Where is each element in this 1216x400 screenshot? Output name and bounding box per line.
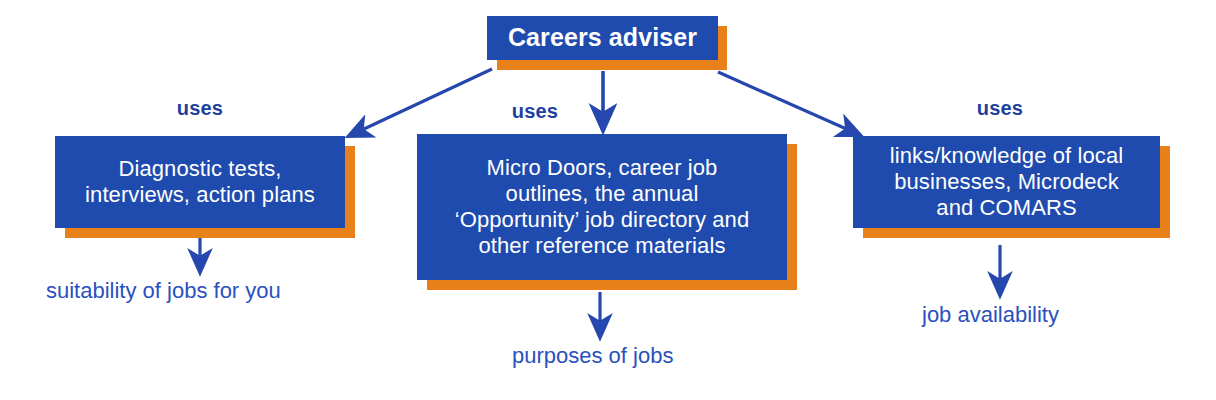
- outcome-right: job availability: [922, 302, 1059, 328]
- right-node[interactable]: links/knowledge of local businesses, Mic…: [853, 136, 1160, 228]
- uses-label-left: uses: [150, 97, 250, 120]
- root-node[interactable]: Careers adviser: [487, 16, 718, 60]
- center-node-line-2: outlines, the annual: [506, 181, 699, 206]
- arrow-root-to-right: [718, 72, 860, 135]
- diagram-canvas: Careers adviser uses Diagnostic tests, i…: [0, 0, 1216, 400]
- outcome-center: purposes of jobs: [512, 343, 673, 369]
- center-node-line-1: Micro Doors, career job: [487, 155, 718, 180]
- right-node-label: links/knowledge of local businesses, Mic…: [890, 143, 1124, 221]
- uses-label-center: uses: [485, 100, 585, 123]
- arrow-root-to-left: [349, 69, 492, 136]
- center-node[interactable]: Micro Doors, career job outlines, the an…: [417, 134, 787, 280]
- left-node-line-2: interviews, action plans: [85, 182, 315, 207]
- root-node-label: Careers adviser: [508, 23, 697, 53]
- outcome-left: suitability of jobs for you: [46, 278, 281, 304]
- left-node[interactable]: Diagnostic tests, interviews, action pla…: [55, 136, 345, 228]
- right-node-line-3: and COMARS: [936, 195, 1076, 220]
- center-node-line-3: ‘Opportunity’ job directory and: [455, 207, 750, 232]
- right-node-line-1: links/knowledge of local: [890, 143, 1124, 168]
- left-node-line-1: Diagnostic tests,: [118, 156, 281, 181]
- uses-label-right: uses: [950, 97, 1050, 120]
- left-node-label: Diagnostic tests, interviews, action pla…: [85, 156, 315, 208]
- center-node-line-4: other reference materials: [478, 233, 725, 258]
- right-node-line-2: businesses, Microdeck: [894, 169, 1119, 194]
- center-node-label: Micro Doors, career job outlines, the an…: [455, 155, 750, 259]
